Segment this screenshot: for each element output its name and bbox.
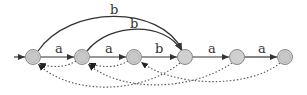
label-arc-0-3: b xyxy=(110,2,118,17)
dotted-5-2 xyxy=(141,62,280,82)
automaton-diagram: a a b a a b b xyxy=(0,0,307,95)
label-edge-2-3: b xyxy=(155,41,163,56)
label-arc-1-3: b xyxy=(130,16,138,31)
label-edge-3-4: a xyxy=(208,41,216,56)
dotted-1-0 xyxy=(39,61,76,67)
state-1 xyxy=(75,50,90,65)
state-2 xyxy=(127,50,142,65)
label-edge-0-1: a xyxy=(55,41,63,56)
state-5-accepting xyxy=(278,50,293,65)
dotted-4-1 xyxy=(88,63,232,85)
label-edge-4-5: a xyxy=(258,41,266,56)
state-4 xyxy=(230,50,245,65)
state-3 xyxy=(178,50,193,65)
dotted-2-1 xyxy=(89,61,128,67)
state-0 xyxy=(26,50,41,65)
label-edge-1-2: a xyxy=(105,41,113,56)
